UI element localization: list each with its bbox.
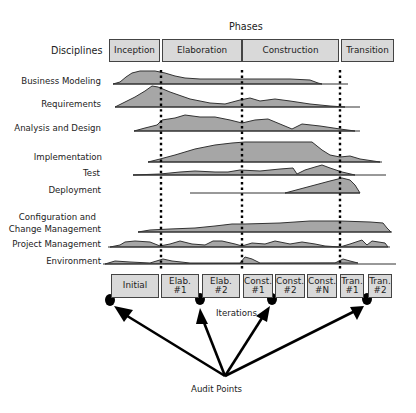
discipline-config-line1: Configuration and bbox=[19, 212, 96, 222]
phase-transition: Transition bbox=[341, 39, 394, 62]
hump-config-change-mgmt bbox=[138, 221, 391, 232]
phase-elaboration: Elaboration bbox=[162, 39, 242, 62]
iteration-elab-2: Elab. #2 bbox=[202, 274, 240, 298]
iteration-const-n: Const.#N bbox=[307, 274, 337, 298]
phase-inception: Inception bbox=[109, 39, 160, 62]
iteration-tran-2: Tran.#2 bbox=[368, 274, 392, 298]
hump-implementation bbox=[148, 142, 380, 162]
phase-construction: Construction bbox=[242, 39, 339, 62]
discipline-environment: Environment bbox=[46, 256, 101, 266]
audit-points-label: Audit Points bbox=[191, 384, 242, 394]
iteration-const-1: Const.#1 bbox=[243, 274, 273, 298]
iteration-tran-1: Tran.#1 bbox=[340, 274, 364, 298]
iteration-const-2: Const.#2 bbox=[275, 274, 305, 298]
hump-analysis-design bbox=[134, 115, 355, 131]
disciplines-header: Disciplines bbox=[51, 46, 102, 56]
discipline-test: Test bbox=[83, 168, 100, 178]
discipline-config-line2: Change Management bbox=[9, 224, 101, 234]
discipline-implementation: Implementation bbox=[34, 152, 102, 162]
hump-project-management bbox=[110, 240, 388, 247]
audit-arrows bbox=[124, 311, 355, 376]
iteration-elab-1: Elab. #1 bbox=[161, 274, 199, 298]
discipline-requirements: Requirements bbox=[41, 99, 101, 109]
hump-requirements bbox=[115, 86, 345, 107]
hump-test bbox=[133, 165, 355, 175]
iteration-initial: Initial bbox=[111, 274, 159, 298]
phases-title: Phases bbox=[229, 22, 263, 32]
hump-deployment bbox=[285, 178, 360, 193]
discipline-business-modeling: Business Modeling bbox=[21, 76, 101, 86]
discipline-deployment: Deployment bbox=[48, 185, 101, 195]
hump-environment bbox=[105, 257, 358, 264]
discipline-project-management: Project Management bbox=[12, 239, 101, 249]
hump-business-modeling bbox=[113, 71, 322, 84]
discipline-analysis-design: Analysis and Design bbox=[14, 123, 101, 133]
iterations-label: Iterations bbox=[216, 308, 257, 318]
